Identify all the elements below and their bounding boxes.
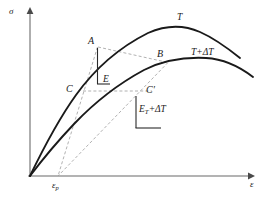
axes-group [27,7,255,179]
point-label-c: C [66,84,73,94]
y-axis-label: σ [9,7,13,16]
figure-canvas [0,0,268,199]
y-axis-arrowhead [27,7,34,14]
epsilon-p-subscript: p [56,184,59,191]
unload-line-b [58,63,168,177]
point-label-b: B [157,49,163,59]
x-axis-label: ε [250,180,254,189]
curve-label-t: T [177,13,182,23]
modulus-label-e-t-delta-t: ET+ΔT [139,105,166,116]
curve-label-t-plus-delta-t: T+ΔT [191,48,214,58]
x-axis-tick-label-epsilon-p: εp [52,181,59,191]
modulus-e-delta: +ΔT [149,104,166,114]
stress-strain-figure: σ ε εp A B C C′ E ET+ΔT T T+ΔT [0,0,268,199]
point-label-c-prime: C′ [146,85,155,95]
point-label-a: A [88,36,94,46]
modulus-label-e: E [103,75,109,85]
